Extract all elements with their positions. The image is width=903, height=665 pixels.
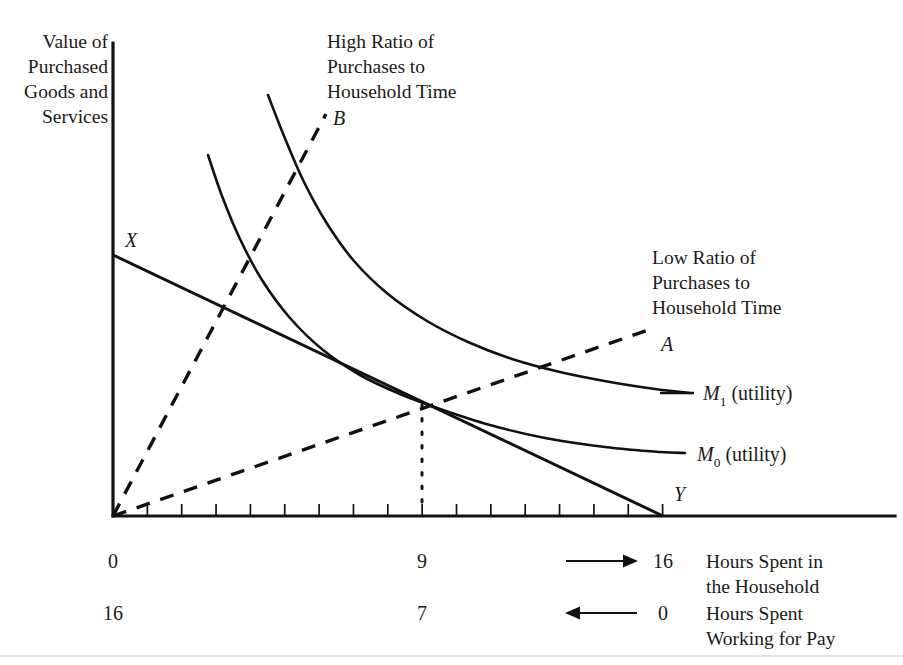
curve-label-m1-symbol: M <box>702 382 721 404</box>
curve-label-m0: M0 (utility) <box>696 443 787 470</box>
work-axis-title: Hours Spent Working for Pay <box>706 603 836 649</box>
low-ratio-line-3: Household Time <box>652 297 781 318</box>
work-tick-label-7: 7 <box>417 602 427 624</box>
low-ratio-line-2: Purchases to <box>652 272 750 293</box>
curve-m1 <box>268 95 690 393</box>
high-ratio-line-2: Purchases to <box>327 56 425 77</box>
ratio-ray-a <box>113 330 648 516</box>
work-tick-label-0: 0 <box>658 602 668 624</box>
point-label-a: A <box>659 333 674 355</box>
x-axis-tick-marks <box>113 504 663 516</box>
curve-label-m1: M1 (utility) <box>702 382 793 409</box>
curve-label-m1-subscript: 1 <box>720 394 727 409</box>
household-tick-label-16: 16 <box>653 550 673 572</box>
y-axis-label-group: Value of Purchased Goods and Services <box>24 31 108 127</box>
figure-container: Value of Purchased Goods and Services Hi… <box>0 0 903 665</box>
curve-label-m0-symbol: M <box>696 443 715 465</box>
y-axis-label-line-4: Services <box>42 106 108 127</box>
household-axis-title-line-1: Hours Spent in <box>706 551 823 572</box>
household-tick-label-9: 9 <box>417 550 427 572</box>
low-ratio-annotation: Low Ratio of Purchases to Household Time <box>652 247 781 318</box>
curve-label-m1-suffix: (utility) <box>726 382 792 405</box>
ratio-ray-b <box>113 114 326 516</box>
work-axis-arrow-icon <box>565 607 637 620</box>
high-ratio-annotation: High Ratio of Purchases to Household Tim… <box>327 31 456 102</box>
work-axis-title-line-1: Hours Spent <box>706 603 804 624</box>
y-axis-label-line-1: Value of <box>42 31 108 52</box>
point-label-x: X <box>124 229 138 251</box>
household-axis-arrow-icon <box>566 555 638 568</box>
high-ratio-line-1: High Ratio of <box>327 31 435 52</box>
work-axis-title-line-2: Working for Pay <box>706 628 836 649</box>
low-ratio-line-1: Low Ratio of <box>652 247 756 268</box>
household-tick-label-0: 0 <box>108 550 118 572</box>
economics-diagram: Value of Purchased Goods and Services Hi… <box>0 0 903 665</box>
y-axis-label-line-2: Purchased <box>28 56 108 77</box>
y-axis-label-line-3: Goods and <box>24 81 108 102</box>
point-label-b: B <box>333 107 345 129</box>
point-label-y: Y <box>674 483 687 505</box>
high-ratio-line-3: Household Time <box>327 81 456 102</box>
curve-label-m0-suffix: (utility) <box>720 443 786 466</box>
household-axis-title-line-2: the Household <box>706 576 819 597</box>
work-tick-label-16: 16 <box>103 602 123 624</box>
household-axis-title: Hours Spent in the Household <box>706 551 823 597</box>
